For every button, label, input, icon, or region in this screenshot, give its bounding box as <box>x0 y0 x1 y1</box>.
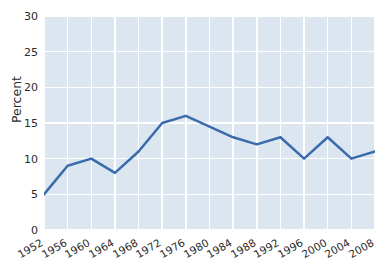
chart-title-cutoff <box>44 0 344 2</box>
y-tick-label: 25 <box>24 45 38 58</box>
y-axis-tick-labels: 051015202530 <box>0 0 44 274</box>
y-tick-label: 10 <box>24 152 38 165</box>
y-tick-label: 5 <box>31 188 38 201</box>
series-polyline <box>44 116 375 194</box>
y-tick-label: 20 <box>24 81 38 94</box>
y-tick-label: 30 <box>24 10 38 23</box>
y-tick-label: 15 <box>24 117 38 130</box>
y-tick-label: 0 <box>31 224 38 237</box>
chart-figure: Percent 051015202530 1952195619601964196… <box>0 0 388 274</box>
x-tick-label: 2008 <box>347 236 376 260</box>
x-axis-tick-labels: 1952195619601964196819721976198019841988… <box>44 231 375 274</box>
plot-panel <box>44 16 375 230</box>
line-series <box>44 16 375 230</box>
